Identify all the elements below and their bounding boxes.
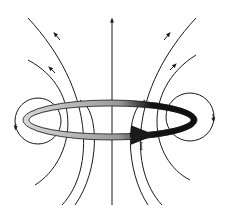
field-lines-figure	[0, 0, 225, 216]
current-label: I	[139, 140, 143, 153]
inner-left-field-line	[28, 60, 68, 185]
arrow-icon	[213, 114, 214, 120]
arrow-icon	[50, 68, 55, 73]
arrow-icon	[164, 34, 169, 40]
near-left-field-line	[75, 100, 94, 205]
arrow-icon	[16, 124, 17, 128]
arrow-icon	[170, 65, 175, 70]
diagram-canvas: I	[0, 0, 225, 216]
arrow-icon	[55, 34, 60, 40]
current-loop	[23, 100, 197, 140]
